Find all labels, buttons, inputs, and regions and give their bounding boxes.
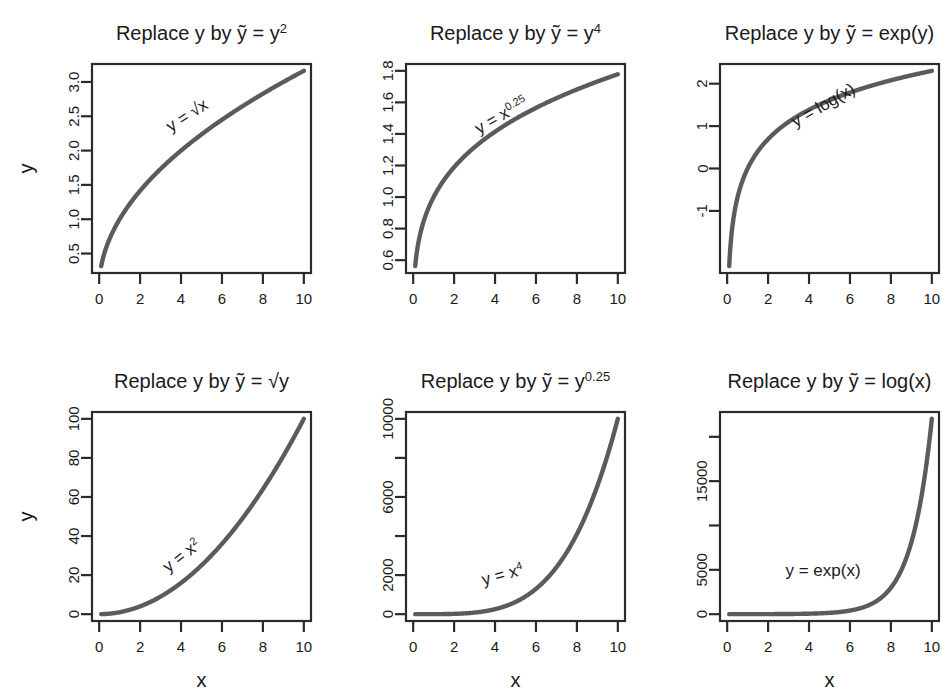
curve-annotation: y = x4 xyxy=(479,559,525,589)
x-tick-label: 0 xyxy=(723,290,731,307)
y-tick-label: 1.8 xyxy=(380,60,397,81)
x-tick-label: 8 xyxy=(887,638,895,655)
chart-panel-3: Replace y by ỹ = exp(y)0246810-1012y = l… xyxy=(628,0,942,347)
y-tick-label: 3.0 xyxy=(66,72,83,93)
chart-panel-5: Replace y by ỹ = y0.25024681002000600010… xyxy=(314,348,628,695)
x-axis-label: x xyxy=(197,669,207,691)
y-tick-label: 0.8 xyxy=(380,218,397,239)
y-axis: 02000600010000 xyxy=(380,398,406,618)
x-axis: 0246810 xyxy=(409,274,626,307)
y-tick-label: 0 xyxy=(380,610,397,618)
y-tick-label: 0.6 xyxy=(380,250,397,271)
figure-panel-grid: Replace y by ỹ = y202468100.51.01.52.02.… xyxy=(0,0,942,695)
x-tick-label: 8 xyxy=(573,638,581,655)
panel-title: Replace y by ỹ = y0.25 xyxy=(421,369,610,392)
y-tick-label: 0 xyxy=(66,610,83,618)
x-tick-label: 10 xyxy=(923,290,940,307)
x-tick-label: 0 xyxy=(409,290,417,307)
y-tick-label: 2 xyxy=(694,80,711,88)
panel-title: Replace y by ỹ = log(x) xyxy=(728,370,932,392)
x-tick-label: 8 xyxy=(887,290,895,307)
x-tick-label: 6 xyxy=(846,638,854,655)
x-tick-label: 4 xyxy=(177,638,185,655)
x-tick-label: 2 xyxy=(764,638,772,655)
y-axis: 020406080100 xyxy=(66,406,92,618)
x-tick-label: 10 xyxy=(295,638,312,655)
y-tick-label: 15000 xyxy=(694,460,711,502)
y-tick-label: 1.6 xyxy=(380,92,397,113)
x-axis: 0246810 xyxy=(95,622,312,655)
x-tick-label: 4 xyxy=(805,290,813,307)
y-axis: 0.51.01.52.02.53.0 xyxy=(66,72,92,264)
x-tick-label: 8 xyxy=(573,290,581,307)
x-axis-label: x xyxy=(511,669,521,691)
curve-annotation: y = log(x) xyxy=(788,79,858,131)
y-tick-label: 20 xyxy=(66,567,83,584)
x-tick-label: 10 xyxy=(923,638,940,655)
panel-title: Replace y by ỹ = exp(y) xyxy=(725,22,935,44)
chart-panel-6: Replace y by ỹ = log(x)02468100500015000… xyxy=(628,348,942,695)
y-tick-label: 10000 xyxy=(380,398,397,440)
x-axis: 0246810 xyxy=(723,274,940,307)
y-tick-label: 1.0 xyxy=(66,209,83,230)
x-axis: 0246810 xyxy=(409,622,626,655)
y-tick-label: 0 xyxy=(694,610,711,618)
plot-box xyxy=(406,412,625,621)
y-axis: 0500015000 xyxy=(694,437,720,619)
y-tick-label: 100 xyxy=(66,406,83,431)
chart-panel-4: Replace y by ỹ = √y0246810020406080100yx… xyxy=(0,348,314,695)
x-tick-label: 0 xyxy=(409,638,417,655)
y-tick-label: 40 xyxy=(66,528,83,545)
chart-panel-2: Replace y by ỹ = y402468100.60.81.01.21.… xyxy=(314,0,628,347)
x-tick-label: 10 xyxy=(609,290,626,307)
y-axis: 0.60.81.01.21.41.61.8 xyxy=(380,60,406,270)
x-tick-label: 10 xyxy=(295,290,312,307)
x-tick-label: 2 xyxy=(136,638,144,655)
panel-title: Replace y by ỹ = y2 xyxy=(116,21,287,44)
x-tick-label: 2 xyxy=(450,638,458,655)
y-tick-label: 1.4 xyxy=(380,124,397,145)
y-tick-label: 2000 xyxy=(380,558,397,591)
chart-panel-1: Replace y by ỹ = y202468100.51.01.52.02.… xyxy=(0,0,314,347)
y-axis: -1012 xyxy=(694,80,720,218)
y-axis-label: y xyxy=(15,164,37,174)
y-tick-label: 2.0 xyxy=(66,140,83,161)
x-tick-label: 4 xyxy=(177,290,185,307)
y-axis-label: y xyxy=(15,512,37,522)
data-curve xyxy=(729,419,932,614)
x-axis: 0246810 xyxy=(723,622,940,655)
x-tick-label: 8 xyxy=(259,290,267,307)
y-tick-label: 60 xyxy=(66,489,83,506)
plot-box xyxy=(92,64,311,273)
x-tick-label: 2 xyxy=(136,290,144,307)
y-tick-label: 2.5 xyxy=(66,106,83,127)
y-tick-label: 0.5 xyxy=(66,243,83,264)
data-curve xyxy=(415,419,618,614)
plot-box xyxy=(92,412,311,621)
y-tick-label: 80 xyxy=(66,450,83,467)
x-tick-label: 2 xyxy=(450,290,458,307)
x-axis: 0246810 xyxy=(95,274,312,307)
y-tick-label: 6000 xyxy=(380,480,397,513)
x-tick-label: 0 xyxy=(95,638,103,655)
x-tick-label: 6 xyxy=(532,290,540,307)
x-tick-label: 6 xyxy=(218,638,226,655)
plot-box xyxy=(720,412,939,621)
x-tick-label: 6 xyxy=(846,290,854,307)
y-tick-label: 5000 xyxy=(694,553,711,586)
y-tick-label: -1 xyxy=(694,204,711,217)
x-tick-label: 2 xyxy=(764,290,772,307)
y-tick-label: 1.2 xyxy=(380,155,397,176)
x-axis-label: x xyxy=(825,669,835,691)
x-tick-label: 6 xyxy=(532,638,540,655)
x-tick-label: 4 xyxy=(805,638,813,655)
y-tick-label: 0 xyxy=(694,164,711,172)
x-tick-label: 6 xyxy=(218,290,226,307)
curve-annotation: y = exp(x) xyxy=(785,561,860,580)
panel-title: Replace y by ỹ = √y xyxy=(114,370,289,392)
x-tick-label: 0 xyxy=(723,638,731,655)
y-tick-label: 1.5 xyxy=(66,174,83,195)
data-curve xyxy=(101,419,304,614)
x-tick-label: 8 xyxy=(259,638,267,655)
y-tick-label: 1 xyxy=(694,122,711,130)
